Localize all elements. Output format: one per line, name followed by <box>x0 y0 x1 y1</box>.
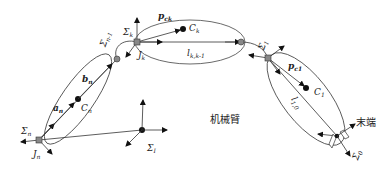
link-1-axis <box>268 58 337 136</box>
end-effector <box>329 124 355 156</box>
joint-k-minus-1 <box>238 39 244 45</box>
label-sigma-k: Σk <box>122 27 133 38</box>
label-l-10: l1,0 <box>288 95 304 111</box>
label-p-c1: pc1 <box>288 61 302 72</box>
end-effector-label: 末端 <box>356 116 376 128</box>
label-J-n: Jn <box>31 149 41 160</box>
robot-arm-diagram: Σn Jn an bn Cn Σn-1 Σk Jk pck Ck lk,k-1 … <box>0 0 391 169</box>
arm-label: 机械臂 <box>210 113 240 125</box>
frame-sigma-I <box>126 100 167 146</box>
label-C-n: Cn <box>81 103 92 114</box>
joint-n-minus-1 <box>114 56 120 62</box>
label-sigma-0: Σ0 <box>350 148 364 162</box>
label-C-k: Ck <box>189 23 200 34</box>
joint-1 <box>265 55 271 61</box>
joint-k <box>134 39 140 45</box>
label-sigma-1: Σ1 <box>256 39 270 53</box>
label-sigma-I: ΣI <box>146 143 156 154</box>
label-C-1: C1 <box>314 87 325 98</box>
label-J-k: Jk <box>136 50 146 61</box>
label-l-kk-1: lk,k-1 <box>187 48 205 59</box>
label-b-n: bn <box>82 74 93 85</box>
com-1 <box>303 85 309 91</box>
com-k <box>180 26 186 32</box>
joint-n <box>36 137 42 143</box>
label-p-ck: pck <box>158 11 172 22</box>
frame-sigma-n <box>21 130 142 154</box>
label-a-n: an <box>53 103 63 114</box>
label-sigma-n: Σn <box>20 126 31 137</box>
label-sigma-n-minus-1: Σn-1 <box>97 30 113 50</box>
